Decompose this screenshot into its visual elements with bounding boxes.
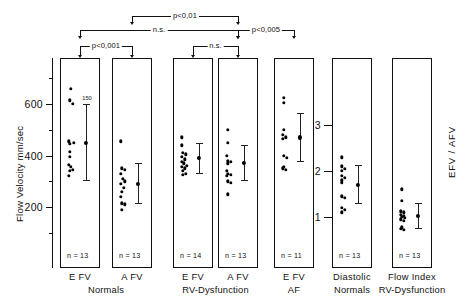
left-axis-tick-400 [46,156,53,157]
left-axis-tick-label-400: 400 [25,150,43,162]
significance-bracket-arrow-4-1 [236,22,240,25]
significance-bracket-arrow-3-0 [236,36,240,39]
error-bar-cap-top [241,145,248,146]
error-bar-cap-top [297,113,304,114]
significance-label-4: p<0,01 [171,11,199,20]
column-label-3: A FV [227,272,248,282]
error-bar-cap-bot [297,161,304,162]
right-axis-tick-1 [324,217,332,218]
right-axis-tick-label-1: 1 [315,211,321,223]
sample-size-label-6: n = 13 [399,251,420,260]
significance-bracket-arrow-1-1 [236,55,240,58]
sample-size-label-0: n = 13 [67,251,88,260]
sample-size-label-2: n = 14 [180,251,201,260]
significance-bracket-arrow-2-0 [78,36,82,39]
column-box-6 [392,58,432,268]
significance-label-0: p<0,001 [90,41,122,50]
left-axis-tick-200 [46,207,53,208]
error-bar-cap-bot [355,203,362,204]
column-label-4: E FV [283,272,305,282]
column-box-4 [274,58,314,268]
column-box-3 [218,58,258,268]
error-bar-cap-top [415,203,422,204]
sample-size-label-5: n = 13 [339,251,360,260]
left-axis-minor-tick-300 [49,181,54,182]
left-axis-tick-600 [46,104,53,105]
significance-bracket-arrow-1-0 [191,55,195,58]
right-axis-tick-2 [324,171,332,172]
significance-label-2: n.s. [151,25,168,34]
column-box-1 [112,58,152,268]
column-label-5: Diastolic [333,272,371,282]
column-box-2 [173,58,213,268]
sample-size-label-1: n = 13 [119,251,140,260]
left-axis-tick-label-600: 600 [25,98,43,110]
right-axis-tick-label-3: 3 [315,119,321,131]
significance-bracket-arrow-4-0 [130,22,134,25]
group-label-6: RV-Dysfunction [379,285,446,295]
significance-label-3: p<0,005 [250,25,282,34]
group-label-0: Normals [88,285,124,295]
sample-size-label-3: n = 13 [225,251,246,260]
column-label-2: E FV [182,272,204,282]
error-bar-cap-top [355,165,362,166]
left-axis-minor-tick-700 [49,78,54,79]
group-label-2: RV-Dysfunction [182,285,249,295]
column-label-1: A FV [121,272,142,282]
left-axis-spine [52,58,53,268]
significance-bracket-arrow-0-1 [130,55,134,58]
sample-size-label-4: n = 11 [281,251,302,260]
error-bar-cap-bot [241,180,248,181]
column-box-5 [332,58,372,268]
error-bar-cap-top [83,104,90,105]
error-bar-cap-bot [135,203,142,204]
figure-root: n = 13E FVn = 13A FVn = 14E FVn = 13A FV… [0,0,466,308]
error-bar-cap-top [196,143,203,144]
left-axis-minor-tick-100 [49,233,54,234]
left-axis-title: Flow Velocity mm/sec [14,126,25,222]
significance-bracket-arrow-0-0 [78,55,82,58]
group-label-5: Normals [334,285,370,295]
error-bar-cap-bot [196,173,203,174]
sd-value-label: 150 [82,95,91,101]
group-label-4: AF [288,285,300,295]
right-axis-title: EFV / AFV [446,126,457,178]
left-axis-minor-tick-500 [49,130,54,131]
error-bar-cap-top [135,163,142,164]
right-axis-tick-label-2: 2 [315,165,321,177]
significance-bracket-arrow-3-1 [292,36,296,39]
error-bar-cap-bot [415,228,422,229]
column-label-6: Flow Index [388,272,436,282]
column-label-0: E FV [69,272,91,282]
left-axis-tick-label-200: 200 [25,201,43,213]
column-box-0 [60,58,100,268]
error-bar-cap-bot [83,180,90,181]
right-axis-tick-3 [324,125,332,126]
significance-label-1: n.s. [207,41,224,50]
